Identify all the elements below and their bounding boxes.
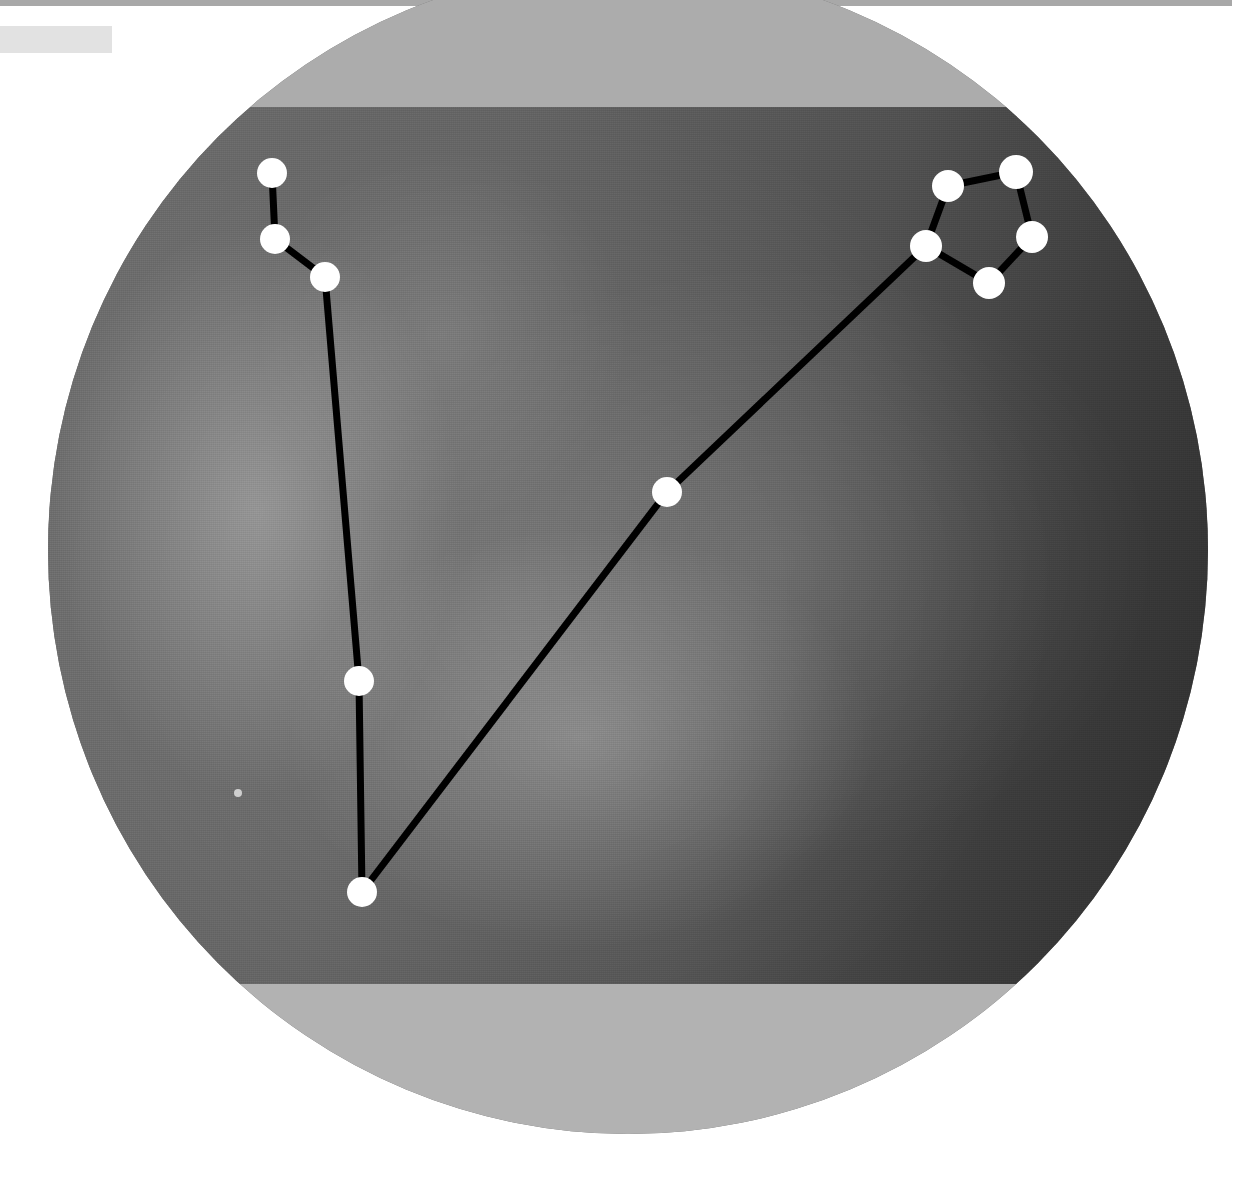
sky-top-band xyxy=(48,0,1208,107)
sky-grain-texture xyxy=(48,107,1208,984)
sky-bottom-band xyxy=(48,984,1208,1134)
sky-map-viewer xyxy=(0,0,1259,1177)
sky-photograph xyxy=(48,107,1208,984)
all-sky-image-viewport[interactable] xyxy=(48,0,1208,1134)
